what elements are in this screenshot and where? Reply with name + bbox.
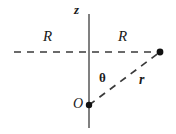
radius-label-right: R [118,29,127,44]
radial-distance-label: r [139,73,144,87]
field-point-marker [157,49,164,56]
z-axis-label: z [74,3,79,16]
figure-canvas [0,0,176,134]
physics-geometry-figure: z R R θ r O [0,0,176,134]
radius-label-left: R [43,29,52,44]
origin-label: O [73,97,83,111]
angle-theta-label: θ [99,71,106,84]
origin-point-marker [86,102,92,108]
